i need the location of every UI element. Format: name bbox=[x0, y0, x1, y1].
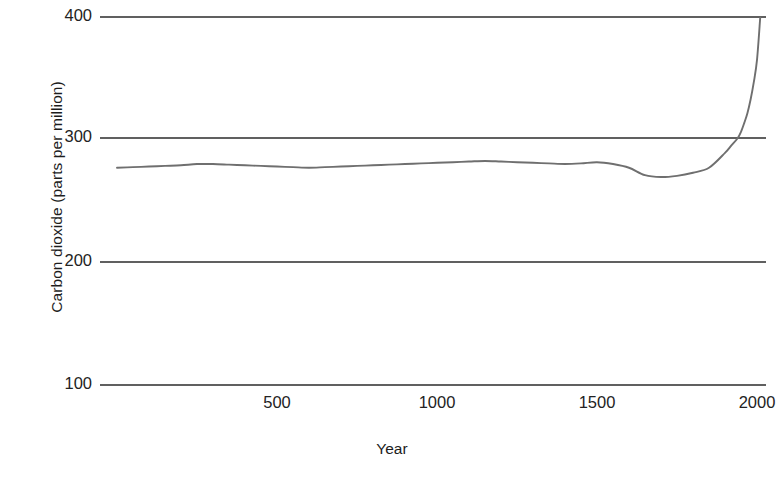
x-tick-label-1000: 1000 bbox=[419, 393, 456, 412]
chart-plot-area bbox=[0, 0, 784, 478]
co2-line-chart: Carbon dioxide (parts per million) 400 3… bbox=[0, 0, 784, 478]
x-axis-label: Year bbox=[0, 440, 784, 458]
data-series-co2-line bbox=[117, 18, 760, 177]
gridlines bbox=[100, 17, 766, 385]
x-tick-label-2000: 2000 bbox=[739, 393, 776, 412]
x-tick-label-500: 500 bbox=[263, 393, 291, 412]
x-tick-label-1500: 1500 bbox=[579, 393, 616, 412]
